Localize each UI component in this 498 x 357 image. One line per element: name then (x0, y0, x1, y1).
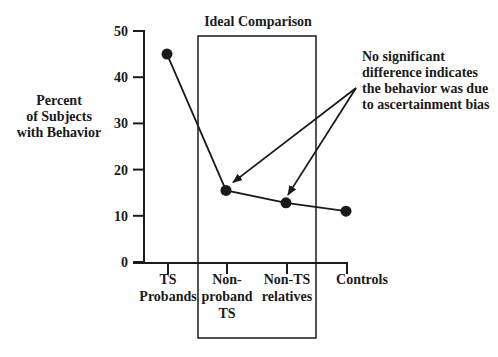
x-category-controls: Controls (322, 271, 402, 288)
y-axis-label-line: of Subjects (4, 109, 114, 125)
ideal-comparison-title: Ideal Comparison (196, 14, 320, 30)
annotation-line: difference indicates (362, 65, 490, 81)
x-category-line: Non-TS (247, 271, 327, 288)
y-axis-label-line: with Behavior (4, 125, 114, 141)
data-point (221, 185, 232, 196)
x-category-line: Controls (322, 271, 402, 288)
y-tick-label: 50 (114, 24, 128, 39)
annotation-arrow (233, 88, 356, 182)
annotation-arrows (233, 88, 356, 195)
data-point (341, 206, 352, 217)
y-axis-label: Percent of Subjects with Behavior (4, 93, 114, 141)
annotation-note: No significant difference indicates the … (362, 49, 490, 113)
y-tick-label: 0 (121, 255, 128, 270)
annotation-line: No significant (362, 49, 490, 65)
annotation-line: the behavior was due (362, 81, 490, 97)
data-point (281, 197, 292, 208)
x-category-non-ts-relatives: Non-TS relatives (247, 271, 327, 305)
data-series (162, 49, 352, 217)
y-tick-label: 30 (114, 116, 128, 131)
data-point (162, 49, 173, 60)
y-tick-label: 10 (114, 209, 128, 224)
x-category-line: TS (187, 305, 267, 322)
x-category-line: relatives (247, 288, 327, 305)
annotation-line: to ascertainment bias (362, 97, 490, 113)
y-axis-label-line: Percent (4, 93, 114, 109)
annotation-arrow (288, 88, 356, 195)
y-tick-label: 20 (114, 163, 128, 178)
y-tick-label: 40 (114, 70, 128, 85)
y-axis: 01020304050 (114, 24, 144, 270)
